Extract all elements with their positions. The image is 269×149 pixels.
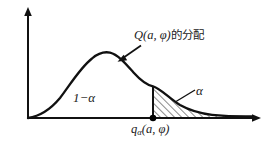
density-curve: [28, 52, 252, 118]
alpha-label-leader-line: [176, 90, 195, 102]
distribution-label-leader-arrow: [118, 46, 142, 62]
quantile-point-marker: [150, 115, 157, 122]
quantile-args: (a, φ): [142, 122, 170, 136]
tail-area-label: α: [196, 84, 203, 97]
distribution-annotation-label: Q(a, φ)的分配: [134, 29, 204, 42]
quantile-axis-label: qα(a, φ): [131, 123, 169, 137]
distribution-figure: Q(a, φ)的分配 1−α α qα(a, φ): [0, 0, 269, 149]
y-axis: [24, 7, 32, 118]
distribution-args: (a, φ): [143, 28, 171, 42]
body-area-label: 1−α: [73, 91, 95, 104]
distribution-symbol: Q: [134, 28, 143, 42]
distribution-cjk-suffix: 的分配: [171, 28, 204, 42]
